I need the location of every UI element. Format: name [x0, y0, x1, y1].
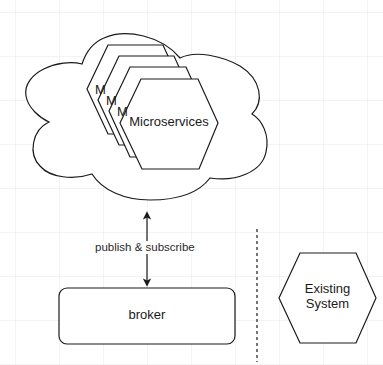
publish-subscribe-label: publish & subscribe — [94, 241, 196, 254]
existing-system-label-line1: Existing — [279, 282, 376, 297]
microservice-label-stacked-1: M — [95, 83, 106, 98]
existing-system-label-line2: System — [279, 297, 376, 312]
broker-label: broker — [59, 308, 235, 323]
existing-system-label: Existing System — [279, 282, 376, 312]
microservices-label: Microservices — [120, 115, 218, 130]
microservice-label-stacked-2: M — [106, 94, 117, 109]
